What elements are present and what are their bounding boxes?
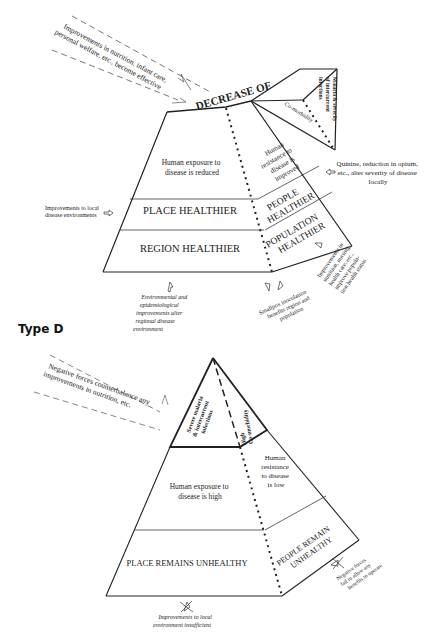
zigzag-icon (178, 74, 191, 90)
severe-malaria-label: Severe malaria & intercurrent infections (185, 394, 218, 440)
blocked-input-icon (180, 601, 193, 612)
place-unhealthy-label: PLACE REMAINS UNHEALTHY (126, 558, 247, 568)
resistance-label: Human resistance to disease is improved (255, 138, 304, 187)
local-env-insufficient-label: Improvements to local environment insuff… (153, 614, 213, 628)
left-input-label: Improvements to local disease environmen… (45, 205, 101, 218)
region-healthier-label: REGION HEALTHIER (140, 243, 240, 254)
type-d-heading: Type D (18, 322, 63, 336)
right-input-arrow-icon (326, 169, 335, 175)
high-comorbidity-label: High Co-morbidity (235, 409, 254, 446)
env-input-label: Environmental and epidemiological improv… (133, 294, 189, 332)
smallpox-arrow-icon-1 (265, 283, 270, 291)
right-input-label: Quinine, reduction in opium, etc., alter… (337, 160, 420, 186)
negative-forces-label: Negative forces counterbalance any impro… (42, 361, 153, 416)
env-input-arrow-icon (168, 282, 173, 292)
blocked-right-input-icon (331, 557, 344, 569)
resistance-low-label: Human resistance to disease is low (261, 454, 290, 489)
negative-forces-fail-label: Negative forces fail to allow any benefi… (335, 551, 383, 593)
smallpox-arrow-icon-2 (278, 281, 283, 290)
diagram-canvas: Improvements in nutrition, infant care, … (0, 0, 429, 641)
exposure-high-label: Human exposure to disease is high (170, 482, 231, 501)
nutrition-input-label: Improvements in nutrition, nursing, heal… (316, 239, 369, 295)
people-unhealthy-label: PEOPLE REMAIN UNHEALTHY (275, 523, 339, 576)
left-input-arrow-icon (104, 210, 113, 216)
place-healthier-label: PLACE HEALTHIER (143, 205, 237, 216)
nutrition-input-arrow-icon (315, 243, 322, 248)
smallpox-input-label: Smallpox inoculation benefits region and… (258, 288, 315, 329)
zigzag-icon (162, 395, 168, 405)
nutrition-arrow-label: Improvements in nutrition, infant care, … (53, 19, 170, 93)
malaria-label: Malaria & severity of intercurrent infec… (318, 77, 338, 123)
exposure-label: Human exposure to disease is reduced (162, 158, 223, 177)
